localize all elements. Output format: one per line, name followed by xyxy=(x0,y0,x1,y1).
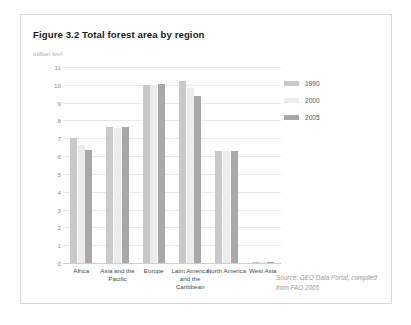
legend-swatch xyxy=(284,81,299,86)
y-tick-label: 0 xyxy=(58,260,61,267)
legend-item: 1990 xyxy=(284,77,364,90)
bar xyxy=(187,88,194,263)
bar-group xyxy=(215,67,237,263)
figure-card: Figure 3.2 Total forest area by region m… xyxy=(20,14,392,304)
bar-group xyxy=(252,67,274,263)
y-tick-label: 7 xyxy=(58,135,61,142)
bar xyxy=(85,150,92,263)
gridline-0 xyxy=(63,263,281,264)
legend-label: 2000 xyxy=(305,97,320,104)
bar xyxy=(194,96,201,263)
y-axis-ticks: 01234567891011 xyxy=(49,67,61,263)
bar xyxy=(231,151,238,263)
bar xyxy=(267,262,274,263)
bar xyxy=(259,262,266,263)
y-tick-label: 3 xyxy=(58,206,61,213)
y-tick-label: 1 xyxy=(58,242,61,249)
legend-label: 1990 xyxy=(305,80,320,87)
bar xyxy=(158,84,165,263)
legend-swatch xyxy=(284,115,299,120)
y-tick-label: 2 xyxy=(58,224,61,231)
legend-item: 2005 xyxy=(284,111,364,124)
bar xyxy=(179,81,186,263)
legend-swatch xyxy=(284,98,299,103)
x-axis-labels: AfricaAsia and the PacificEuropeLatin Am… xyxy=(63,267,281,307)
y-tick-label: 6 xyxy=(58,153,61,160)
source-note: Source: GEO Data Portal, compiled from F… xyxy=(276,273,388,292)
bar xyxy=(106,127,113,263)
chart-legend: 199020002005 xyxy=(284,77,364,128)
bar xyxy=(78,145,85,263)
y-tick-label: 11 xyxy=(55,64,61,71)
bar xyxy=(114,128,121,263)
bar-group xyxy=(70,67,92,263)
bar xyxy=(143,85,150,263)
bar-group xyxy=(106,67,128,263)
bar xyxy=(122,127,129,263)
bar xyxy=(215,151,222,263)
legend-item: 2000 xyxy=(284,94,364,107)
y-tick-label: 4 xyxy=(58,188,61,195)
bar xyxy=(150,85,157,263)
bar xyxy=(70,138,77,263)
legend-label: 2005 xyxy=(305,114,320,121)
bar-group xyxy=(179,67,201,263)
y-tick-label: 5 xyxy=(58,170,61,177)
bar-group xyxy=(143,67,165,263)
bars-layer xyxy=(63,67,281,263)
bar xyxy=(252,262,259,263)
axis-unit-label: million km² xyxy=(33,50,63,57)
y-tick-label: 10 xyxy=(54,81,61,88)
figure-title: Figure 3.2 Total forest area by region xyxy=(33,29,205,40)
bar xyxy=(223,151,230,263)
y-tick-label: 8 xyxy=(58,117,61,124)
y-tick-label: 9 xyxy=(58,99,61,106)
chart-plot-area: 01234567891011 AfricaAsia and the Pacifi… xyxy=(63,67,281,277)
